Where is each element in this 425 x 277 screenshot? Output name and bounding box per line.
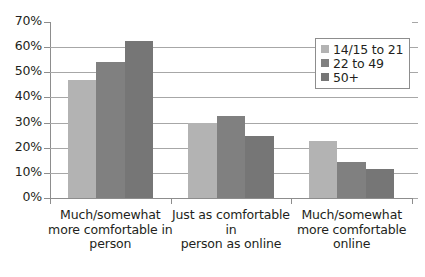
y-axis-tick-label: 30% [0, 116, 42, 128]
x-axis-category-label-line: more comfortable in [46, 223, 175, 238]
bar [217, 116, 246, 198]
legend-item-label: 50+ [333, 71, 359, 84]
y-axis-tick-label: 70% [0, 15, 42, 27]
legend-item-label: 22 to 49 [333, 57, 384, 70]
right-axis-tick [412, 47, 418, 48]
legend-item[interactable]: 14/15 to 21 [321, 42, 403, 56]
y-axis-tick-label: 0% [0, 191, 42, 203]
x-axis-category-label-line: person as online [167, 237, 296, 252]
y-axis-tick-label: 10% [0, 166, 42, 178]
y-axis-tick-label: 60% [0, 40, 42, 52]
legend-swatch-icon [321, 45, 329, 53]
legend-swatch-icon [321, 59, 329, 67]
y-axis-tick-label: 20% [0, 141, 42, 153]
bar-chart: 0%10%20%30%40%50%60%70% Much/somewhatmor… [0, 0, 425, 277]
x-axis-category-label: Much/somewhatmore comfortableonline [287, 208, 416, 252]
legend-item[interactable]: 50+ [321, 70, 403, 84]
bar [125, 41, 154, 198]
bar [337, 162, 366, 198]
right-axis-tick [412, 22, 418, 23]
right-axis-tick [412, 123, 418, 124]
x-axis-tick [171, 198, 172, 204]
x-axis-category-label-line: online [287, 237, 416, 252]
x-axis-category-label-line: Much/somewhat [46, 208, 175, 223]
axis-baseline [50, 198, 412, 199]
y-axis-tick-label: 40% [0, 90, 42, 102]
right-axis-tick [412, 97, 418, 98]
x-axis-category-label-line: more comfortable [287, 223, 416, 238]
right-axis-tick [412, 148, 418, 149]
bar [188, 123, 217, 198]
right-axis-tick [412, 173, 418, 174]
legend: 14/15 to 2122 to 4950+ [315, 38, 410, 89]
bar [96, 62, 125, 198]
legend-swatch-icon [321, 73, 329, 81]
x-axis-category-label-line: Much/somewhat [287, 208, 416, 223]
x-axis-category-label-line: person [46, 237, 175, 252]
right-axis-tick [412, 72, 418, 73]
x-axis-category-label: Much/somewhatmore comfortable inperson [46, 208, 175, 252]
bar [68, 80, 97, 198]
bar [366, 169, 395, 198]
x-axis-category-label: Just as comfortable inperson as online [167, 208, 296, 252]
x-axis-category-label-line: Just as comfortable in [167, 208, 296, 237]
bar [245, 136, 274, 198]
legend-item[interactable]: 22 to 49 [321, 56, 403, 70]
x-axis-tick [412, 198, 413, 204]
y-axis-tick-label: 50% [0, 65, 42, 77]
x-axis-tick [291, 198, 292, 204]
legend-item-label: 14/15 to 21 [333, 43, 403, 56]
bar [309, 141, 338, 198]
x-axis-tick [50, 198, 51, 204]
